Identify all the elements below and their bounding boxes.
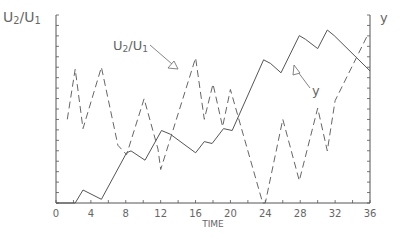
chart: 04812162024283236TIMEU2/U1y U2/U1y (0, 0, 402, 239)
annotation-arrow-line (150, 45, 172, 64)
x-axis-label: TIME (201, 219, 224, 229)
x-tick-label: 16 (189, 208, 202, 219)
y-dashed-line (67, 34, 368, 203)
annotation-y: y (312, 83, 320, 98)
annotation-u2-u1: U2/U1 (113, 38, 148, 54)
x-tick-label: 24 (259, 208, 272, 219)
left-axis-label: U2/U1 (3, 9, 41, 26)
right-axis-label: y (380, 10, 388, 25)
annotations: U2/U1y (113, 38, 320, 98)
u2-u1-solid-line (56, 30, 370, 203)
arrow-head-icon (293, 65, 300, 75)
x-tick-label: 4 (88, 208, 94, 219)
x-tick-label: 32 (329, 208, 342, 219)
x-tick-label: 36 (364, 208, 377, 219)
x-tick-label: 28 (294, 208, 307, 219)
annotation-arrow-line (298, 72, 310, 88)
x-tick-label: 8 (123, 208, 129, 219)
axes: 04812162024283236TIMEU2/U1y (3, 9, 388, 229)
x-tick-label: 12 (154, 208, 167, 219)
series-lines (56, 30, 370, 203)
x-tick-label: 0 (53, 208, 59, 219)
x-tick-label: 20 (224, 208, 237, 219)
